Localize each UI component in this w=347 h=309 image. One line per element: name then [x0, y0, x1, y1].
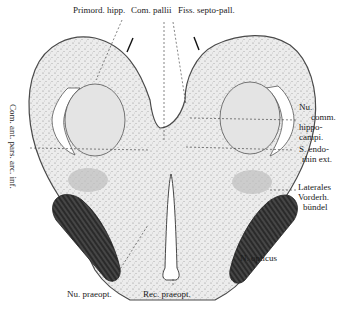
label-rec-praeopt: Rec. praeopt.	[143, 289, 191, 299]
label-com-ant-pars-arc-inf: Com. ant. pars. arc. inf.	[8, 104, 18, 189]
label-nu-comm-hippocampi: Nu. comm. hippo- campi.	[299, 102, 336, 142]
brain-section-figure	[0, 0, 347, 309]
label-primord-hipp: Primord. hipp.	[73, 5, 125, 15]
right-lateral-bundle	[232, 170, 272, 194]
label-s-endorhin-ext: S. endo- rhin ext.	[299, 144, 332, 164]
left-hippocampal-lobe	[65, 84, 125, 156]
arrow-markers	[127, 37, 199, 52]
label-nu-praeopt: Nu. praeopt.	[67, 289, 112, 299]
label-fiss-septo-pall: Fiss. septo-pall.	[178, 5, 235, 15]
label-laterales-vorderh-bundel: Laterales Vorderh. bündel	[298, 182, 331, 212]
label-com-pallii: Com. pallii	[131, 5, 172, 15]
left-lateral-bundle	[68, 168, 108, 192]
label-n-opticus: N. opticus	[240, 253, 277, 263]
right-hippocampal-lobe	[220, 82, 280, 154]
